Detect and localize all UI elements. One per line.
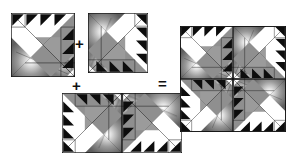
- result-cell-top-right: [233, 26, 286, 79]
- operator-plus-2: +: [72, 78, 81, 93]
- result-cell-top-left: [180, 26, 233, 79]
- result-cell-bottom-left: [180, 79, 233, 132]
- quilt-block-4[interactable]: [122, 93, 182, 153]
- quilt-block-1-art: [11, 13, 75, 77]
- quilt-block-2-art: [88, 13, 148, 73]
- quilt-block-3[interactable]: [62, 93, 122, 153]
- result-quilt[interactable]: [180, 26, 286, 132]
- operator-plus-1: +: [75, 36, 84, 51]
- quilt-block-1[interactable]: [11, 13, 75, 77]
- operator-equals: =: [158, 76, 167, 91]
- quilt-block-3-art: [62, 93, 122, 153]
- result-quilt-art: [180, 26, 286, 132]
- quilt-block-2[interactable]: [88, 13, 148, 73]
- quilt-diagram: + + =: [0, 0, 289, 157]
- quilt-block-4-art: [122, 93, 182, 153]
- result-cell-bottom-right: [233, 79, 286, 132]
